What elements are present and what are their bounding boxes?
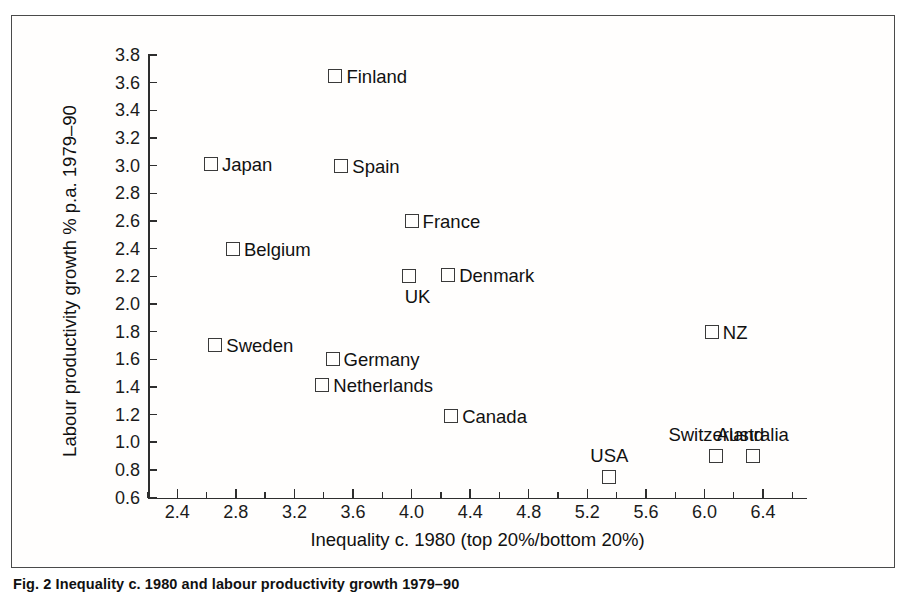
square-marker-icon — [315, 378, 329, 392]
x-tick-label: 3.2 — [270, 503, 318, 521]
x-tick — [587, 489, 588, 498]
x-axis-title: Inequality c. 1980 (top 20%/bottom 20%) — [148, 529, 807, 551]
y-tick — [148, 54, 157, 55]
y-tick — [148, 497, 157, 498]
x-tick-label: 4.4 — [446, 503, 494, 521]
y-tick-label: 1.4 — [100, 378, 140, 396]
x-tick-label: 4.0 — [388, 503, 436, 521]
y-tick-label: 3.0 — [100, 157, 140, 175]
y-tick-label: 2.4 — [100, 240, 140, 258]
x-tick — [352, 489, 353, 498]
x-tick-minor — [499, 492, 500, 498]
x-tick — [704, 489, 705, 498]
y-tick-label: 3.8 — [100, 46, 140, 64]
data-point-label: NZ — [723, 324, 748, 343]
x-tick-minor — [792, 492, 793, 498]
square-marker-icon — [334, 159, 348, 173]
x-tick-label: 2.8 — [212, 503, 260, 521]
x-tick — [294, 489, 295, 498]
y-tick-label: 2.8 — [100, 184, 140, 202]
square-marker-icon — [405, 214, 419, 228]
x-tick-minor — [616, 492, 617, 498]
x-tick-label: 3.6 — [329, 503, 377, 521]
square-marker-icon — [226, 242, 240, 256]
y-tick — [148, 303, 157, 304]
y-tick — [148, 220, 157, 221]
y-tick — [148, 414, 157, 415]
y-tick — [148, 248, 157, 249]
square-marker-icon — [402, 269, 416, 283]
scatter-plot: 0.60.81.01.21.41.61.82.02.22.42.62.83.03… — [0, 0, 909, 593]
y-tick-label: 1.6 — [100, 350, 140, 368]
x-tick — [645, 489, 646, 498]
data-point-label: France — [423, 213, 481, 232]
y-tick-label: 1.0 — [100, 433, 140, 451]
x-tick-minor — [382, 492, 383, 498]
y-tick-label: 1.2 — [100, 406, 140, 424]
y-tick — [148, 110, 157, 111]
data-point-label: Netherlands — [333, 377, 433, 396]
y-axis-title: Labour productivity growth % p.a. 1979–9… — [59, 71, 81, 491]
data-point-label: Sweden — [226, 337, 293, 356]
x-tick — [411, 489, 412, 498]
square-marker-icon — [746, 449, 760, 463]
x-tick-label: 5.2 — [563, 503, 611, 521]
y-tick-label: 3.4 — [100, 101, 140, 119]
x-tick-label: 6.4 — [739, 503, 787, 521]
data-point-label: UK — [405, 288, 431, 307]
y-tick — [148, 469, 157, 470]
x-tick-minor — [147, 492, 148, 498]
data-point-label: Denmark — [459, 267, 534, 286]
y-tick-label: 3.2 — [100, 129, 140, 147]
x-tick-minor — [206, 492, 207, 498]
x-tick — [469, 489, 470, 498]
square-marker-icon — [602, 470, 616, 484]
y-tick-label: 2.0 — [100, 295, 140, 313]
y-tick — [148, 82, 157, 83]
x-axis-line — [148, 498, 807, 500]
square-marker-icon — [709, 449, 723, 463]
square-marker-icon — [444, 409, 458, 423]
y-tick-label: 3.6 — [100, 74, 140, 92]
x-tick-minor — [440, 492, 441, 498]
y-tick — [148, 359, 157, 360]
x-tick-minor — [557, 492, 558, 498]
y-tick — [148, 441, 157, 442]
square-marker-icon — [705, 325, 719, 339]
square-marker-icon — [328, 69, 342, 83]
data-point-label: Canada — [462, 408, 527, 427]
y-tick — [148, 193, 157, 194]
figure-caption: Fig. 2 Inequality c. 1980 and labour pro… — [13, 576, 893, 593]
x-tick — [528, 489, 529, 498]
data-point-label: Germany — [344, 351, 420, 370]
data-point-label: Belgium — [244, 241, 311, 260]
y-tick-label: 2.2 — [100, 267, 140, 285]
y-tick-label: 0.8 — [100, 461, 140, 479]
y-tick — [148, 331, 157, 332]
data-point-label: USA — [590, 447, 628, 466]
square-marker-icon — [441, 268, 455, 282]
square-marker-icon — [204, 157, 218, 171]
x-tick-minor — [264, 492, 265, 498]
data-point-label: Australia — [717, 426, 789, 445]
x-tick — [177, 489, 178, 498]
data-point-label: Japan — [222, 156, 272, 175]
x-tick-label: 4.8 — [505, 503, 553, 521]
square-marker-icon — [326, 352, 340, 366]
square-marker-icon — [208, 338, 222, 352]
x-tick-minor — [323, 492, 324, 498]
y-tick-label: 2.6 — [100, 212, 140, 230]
x-tick-label: 5.6 — [622, 503, 670, 521]
y-tick — [148, 137, 157, 138]
y-tick-label: 1.8 — [100, 323, 140, 341]
y-tick — [148, 276, 157, 277]
y-tick — [148, 386, 157, 387]
x-tick-label: 2.4 — [153, 503, 201, 521]
y-tick-label: 0.6 — [100, 489, 140, 507]
y-tick — [148, 165, 157, 166]
data-point-label: Finland — [346, 68, 407, 87]
x-tick-minor — [675, 492, 676, 498]
x-tick — [762, 489, 763, 498]
x-tick-label: 6.0 — [680, 503, 728, 521]
data-point-label: Spain — [352, 158, 399, 177]
